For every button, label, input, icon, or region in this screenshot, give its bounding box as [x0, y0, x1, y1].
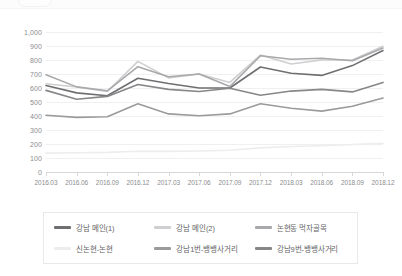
legend-item[interactable]: 강남 메인(2) — [150, 222, 250, 233]
y-axis-tick-label: 500 — [30, 99, 42, 106]
legend-item[interactable]: 강남 메인(1) — [50, 222, 150, 233]
x-axis-tick — [138, 172, 139, 176]
x-axis-tick-label: 2017.09 — [218, 179, 241, 186]
top-edge-nub — [18, 0, 52, 7]
series-line — [46, 46, 383, 91]
x-axis-tick — [322, 172, 323, 176]
x-axis-tick — [46, 172, 47, 176]
legend-item[interactable]: 논현동 먹자골목 — [251, 222, 351, 233]
x-axis-tick — [352, 172, 353, 176]
x-axis-tick — [107, 172, 108, 176]
y-axis-tick-label: 400 — [30, 113, 42, 120]
line-chart: 1,0009008007006005004003002001000 2016.0… — [0, 14, 402, 204]
x-axis-labels: 2016.032016.062016.092016.122017.032017.… — [0, 179, 402, 193]
x-axis-tick-label: 2018.12 — [372, 179, 395, 186]
x-axis-tick-label: 2018.09 — [341, 179, 364, 186]
x-axis-tick-label: 2016.09 — [96, 179, 119, 186]
legend-item-label: 논현동 먹자골목 — [277, 222, 327, 233]
legend-item-label: 강남 메인(2) — [176, 222, 214, 233]
x-axis-tick-label: 2017.12 — [249, 179, 272, 186]
legend-swatch-icon — [255, 226, 272, 229]
y-axis-tick-label: 800 — [30, 57, 42, 64]
x-axis-tick — [169, 172, 170, 176]
x-axis-tick — [230, 172, 231, 176]
x-axis-tick-label: 2016.03 — [35, 179, 58, 186]
legend-item-label: 강남 메인(1) — [76, 222, 114, 233]
y-axis-tick-label: 100 — [30, 155, 42, 162]
top-edge-strip — [0, 0, 402, 9]
series-line — [46, 98, 383, 117]
plot-area — [46, 32, 383, 172]
y-axis-tick-label: 900 — [30, 43, 42, 50]
chart-page: 1,0009008007006005004003002001000 2016.0… — [0, 0, 402, 276]
legend-swatch-icon — [54, 226, 71, 229]
legend-swatch-icon — [54, 247, 71, 250]
y-axis-labels: 1,0009008007006005004003002001000 — [0, 32, 42, 172]
y-axis-tick-label: 200 — [30, 141, 42, 148]
y-axis-tick-label: 700 — [30, 71, 42, 78]
y-axis-tick-label: 0 — [38, 169, 42, 176]
x-axis-tick-label: 2017.03 — [157, 179, 180, 186]
series-lines — [46, 32, 383, 172]
x-axis-tick — [260, 172, 261, 176]
legend-item-label: 강남9번-뱅뱅사거리 — [277, 243, 339, 254]
legend-swatch-icon — [154, 247, 171, 250]
legend-swatch-icon — [255, 247, 272, 250]
chart-legend: 강남 메인(1)강남 메인(2)논현동 먹자골목신논현-논현강남1번-뱅뱅사거리… — [43, 212, 358, 264]
x-axis-tick — [383, 172, 384, 176]
x-axis-tick-label: 2017.06 — [188, 179, 211, 186]
x-axis-tick — [199, 172, 200, 176]
series-line — [46, 143, 383, 153]
x-axis-tick — [77, 172, 78, 176]
x-axis-tick-label: 2018.06 — [310, 179, 333, 186]
legend-item[interactable]: 신논현-논현 — [50, 243, 150, 254]
legend-item[interactable]: 강남1번-뱅뱅사거리 — [150, 243, 250, 254]
legend-item-label: 신논현-논현 — [76, 243, 113, 254]
x-axis-tick — [291, 172, 292, 176]
legend-item-label: 강남1번-뱅뱅사거리 — [176, 243, 238, 254]
x-axis-tick-label: 2016.06 — [65, 179, 88, 186]
y-axis-tick-label: 1,000 — [24, 29, 42, 36]
x-axis-line — [46, 172, 383, 173]
y-axis-tick-label: 600 — [30, 85, 42, 92]
x-axis-tick-label: 2016.12 — [127, 179, 150, 186]
series-line — [46, 82, 383, 99]
y-axis-tick-label: 300 — [30, 127, 42, 134]
legend-item[interactable]: 강남9번-뱅뱅사거리 — [251, 243, 351, 254]
x-axis-tick-label: 2018.03 — [280, 179, 303, 186]
legend-swatch-icon — [154, 226, 171, 229]
series-line — [46, 48, 383, 91]
